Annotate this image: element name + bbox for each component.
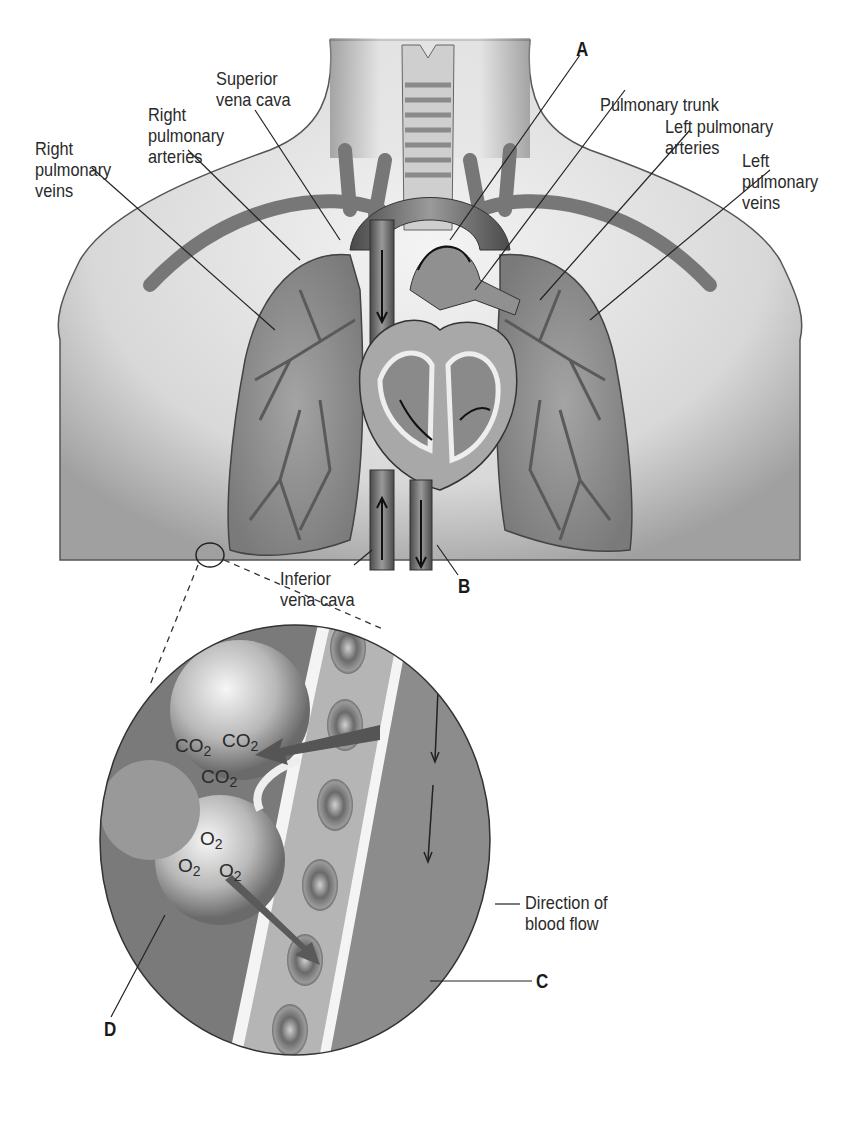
co2-label-1: CO2: [175, 735, 211, 759]
label-direction-of-blood-flow: Direction of blood flow: [525, 892, 608, 934]
o2-label-2: O2: [178, 855, 201, 879]
label-right-pulmonary-veins: Right pulmonary veins: [35, 138, 111, 201]
o2-label-1: O2: [200, 828, 223, 852]
o2-label-3: O2: [219, 860, 242, 884]
label-left-pulmonary-veins: Left pulmonary veins: [742, 150, 818, 213]
anatomy-illustration: [0, 0, 858, 1126]
label-superior-vena-cava: Superior vena cava: [216, 68, 290, 110]
label-pulmonary-trunk: Pulmonary trunk: [600, 94, 719, 115]
marker-a: A: [576, 38, 588, 61]
co2-label-2: CO2: [222, 730, 258, 754]
co2-label-3: CO2: [201, 766, 237, 790]
marker-c: C: [536, 970, 548, 993]
marker-d: D: [104, 1018, 116, 1041]
label-right-pulmonary-arteries: Right pulmonary arteries: [148, 104, 224, 167]
label-inferior-vena-cava: Inferior vena cava: [280, 568, 354, 610]
marker-b: B: [458, 575, 470, 598]
